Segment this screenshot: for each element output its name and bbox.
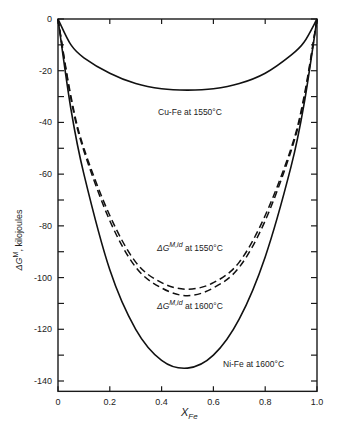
curve--g-m-id-at-1600-c [58,19,317,296]
curves [58,19,317,368]
x-axis-title: XFe [180,406,198,421]
curve-cu-fe-at-1550-c [58,19,317,90]
y-tick-label: 0 [47,14,52,24]
y-tick-label: -20 [39,66,52,76]
gibbs-energy-chart: 00.20.40.60.81.00-20-40-60-80-100-120-14… [0,0,338,440]
x-tick-label: 0 [55,397,60,407]
y-tick-label: -80 [39,221,52,231]
curve-ni-fe-at-1600-c [58,19,317,368]
y-tick-label: -120 [34,324,52,334]
x-tick-label: 0.4 [155,397,168,407]
y-tick-label: -60 [39,169,52,179]
y-tick-label: -40 [39,117,52,127]
plot-border [58,19,317,391]
y-tick-label: -140 [34,376,52,386]
x-tick-label: 0.6 [207,397,220,407]
x-tick-label: 0.8 [259,397,272,407]
label-nife: Ni-Fe at 1600°C [223,359,284,369]
x-tick-label: 1.0 [311,397,324,407]
label-ideal-1600: ΔGM,id at 1600°C [156,299,223,311]
x-tick-label: 0.2 [104,397,117,407]
plot-frame [58,19,317,391]
label-ideal-1550: ΔGM,id at 1550°C [156,241,223,253]
label-cufe: Cu-Fe at 1550°C [158,107,222,117]
y-tick-label: -100 [34,273,52,283]
y-axis-title: ΔGM, kilojoules [12,209,24,271]
